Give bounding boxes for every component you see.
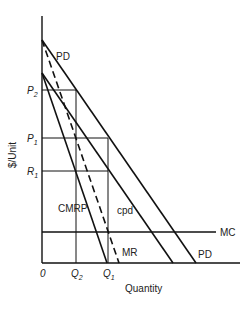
mc-label: MC	[220, 227, 236, 238]
cpd-label: cpd	[117, 205, 133, 216]
p2-label: P2	[27, 85, 38, 98]
p1-label: P1	[27, 133, 38, 146]
cmrp-curve	[42, 73, 107, 263]
q2-label: Q2	[71, 268, 83, 281]
r1-label: R1	[27, 166, 38, 179]
mr-curve	[42, 40, 119, 263]
pd-curve	[42, 40, 196, 263]
mr-label: MR	[122, 247, 138, 258]
y-axis-title: $/Unit	[7, 142, 18, 168]
q1-label: Q1	[103, 268, 115, 281]
pd-label-top: PD	[56, 51, 70, 62]
origin-label: 0	[40, 268, 46, 279]
x-axis-title: Quantity	[125, 283, 162, 294]
pd-label-bottom: PD	[198, 249, 212, 260]
cmrp-label: CMRP	[58, 203, 88, 214]
economics-diagram: PD PD cpd CMRP MR MC P2 P1 R1 0 Q2 Q1 Qu…	[0, 0, 247, 309]
